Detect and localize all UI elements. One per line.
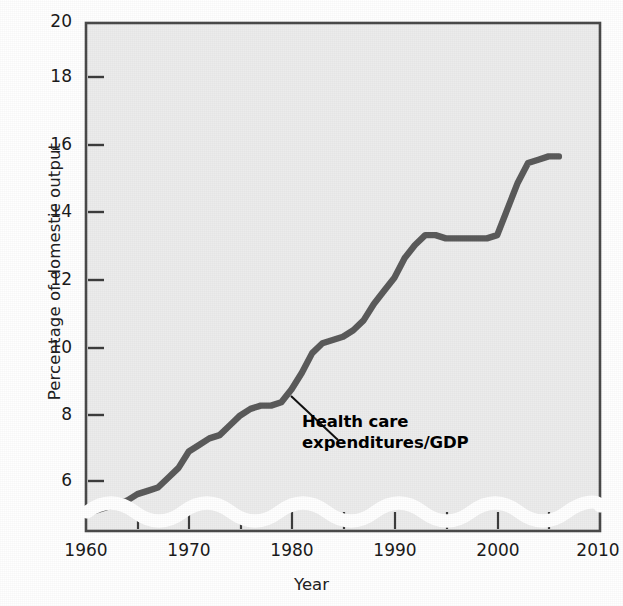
x-tick-1960: 1960 [46,540,126,560]
plot-background [86,23,600,531]
x-tick-1970: 1970 [149,540,229,560]
chart-plot-area [0,0,623,606]
x-tick-1980: 1980 [252,540,332,560]
y-tick-6: 6 [28,472,72,489]
y-tick-18: 18 [28,68,72,85]
y-axis-title: Percentage of domestic output [45,122,64,422]
y-tick-20: 20 [28,13,72,30]
annotation-line-2: expenditures/GDP [302,432,469,453]
annotation-line-1: Health care [302,411,469,432]
x-axis-title: Year [0,575,623,594]
x-tick-1990: 1990 [355,540,435,560]
x-tick-2000: 2000 [458,540,538,560]
x-tick-2010: 2010 [558,540,623,560]
chart-figure: 20 18 16 14 12 10 8 6 1960 1970 1980 199… [0,0,623,606]
series-annotation: Health care expenditures/GDP [302,411,469,453]
